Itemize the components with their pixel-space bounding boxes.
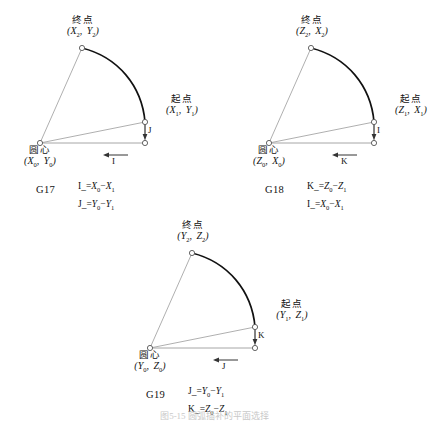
- start-point-marker: [252, 324, 257, 329]
- formula-row: K_=Z0−Z1: [307, 178, 346, 196]
- end-point-label: 终点 (X2, Y2): [48, 16, 118, 39]
- end-point-label: 终点 (Y2, Z2): [158, 221, 228, 244]
- end-point-marker: [189, 250, 194, 255]
- plane-label-g17: G17: [36, 184, 55, 195]
- diagram-g17: 终点 (X2, Y2) 起点 (X1, Y1) 圆心 (X0, Y0) J I …: [0, 0, 215, 215]
- start-point-coord: (X1, Y1): [150, 105, 214, 118]
- arc-path: [192, 253, 255, 327]
- radius-line-to-start: [150, 327, 255, 348]
- end-point-marker: [79, 45, 84, 50]
- horizontal-arrow-head: [332, 153, 338, 158]
- start-point-label: 起点 (Z1, X1): [379, 95, 429, 118]
- arc-path: [82, 48, 145, 122]
- formula-row: J_=Y0−Y1: [188, 383, 227, 401]
- vertical-arrow-label: J: [148, 125, 152, 135]
- corner-point-marker: [252, 345, 257, 350]
- formula-row: I_=X0−X1: [78, 178, 115, 196]
- diagram-g18: 终点 (Z2, X2) 起点 (Z1, X1) 圆心 (Z0, X0) I K …: [229, 0, 429, 215]
- end-point-label: 终点 (Z2, X2): [277, 16, 347, 39]
- end-point-coord: (Z2, X2): [277, 26, 347, 39]
- start-point-coord: (Z1, X1): [379, 105, 429, 118]
- arc-path: [311, 48, 374, 122]
- start-point-marker: [371, 119, 376, 124]
- vertical-arrow-head: [372, 134, 377, 140]
- corner-point-marker: [371, 140, 376, 145]
- radius-line-to-end: [150, 253, 192, 348]
- start-point-label: 起点 (X1, Y1): [150, 95, 214, 118]
- horizontal-arrow-head: [103, 153, 109, 158]
- end-point-marker: [308, 45, 313, 50]
- start-point-marker: [142, 119, 147, 124]
- vertical-arrow-label: I: [377, 125, 380, 135]
- center-point-coord: (Y0, Z0): [116, 361, 184, 374]
- diagram-g19: 终点 (Y2, Z2) 起点 (Y1, Z1) 圆心 (Y0, Z0) K J …: [110, 205, 325, 420]
- vertical-arrow-head: [143, 134, 148, 140]
- radius-line-to-end: [40, 48, 82, 143]
- radius-line-to-start: [40, 122, 145, 143]
- corner-point-marker: [142, 140, 147, 145]
- horizontal-arrow-label: I: [112, 156, 115, 166]
- center-point-coord: (X0, Y0): [6, 156, 74, 169]
- center-point-coord: (Z0, X0): [235, 156, 303, 169]
- horizontal-arrow-label: K: [341, 156, 348, 166]
- vertical-arrow-label: K: [258, 330, 265, 340]
- end-point-coord: (X2, Y2): [48, 26, 118, 39]
- center-point-label: 圆心 (Y0, Z0): [116, 351, 184, 374]
- radius-line-to-start: [269, 122, 374, 143]
- radius-line-to-end: [269, 48, 311, 143]
- center-point-label: 圆心 (Z0, X0): [235, 146, 303, 169]
- vertical-arrow-head: [253, 339, 258, 345]
- plane-label-g18: G18: [265, 184, 284, 195]
- plane-label-g19: G19: [146, 389, 165, 400]
- figure-caption: 图5-15 圆弧插补的平面选择: [0, 409, 429, 421]
- horizontal-arrow-head: [213, 358, 219, 363]
- start-point-label: 起点 (Y1, Z1): [260, 300, 324, 323]
- center-point-label: 圆心 (X0, Y0): [6, 146, 74, 169]
- start-point-name: 起点: [379, 95, 429, 105]
- horizontal-arrow-label: J: [222, 361, 226, 371]
- end-point-coord: (Y2, Z2): [158, 231, 228, 244]
- start-point-coord: (Y1, Z1): [260, 310, 324, 323]
